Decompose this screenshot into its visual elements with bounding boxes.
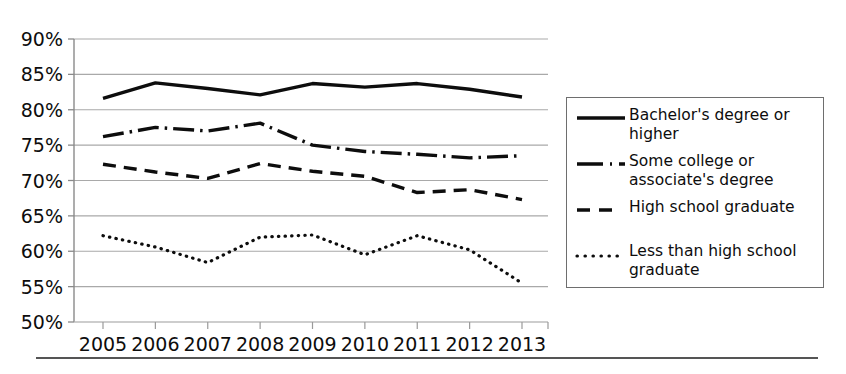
legend-item-bachelors: Bachelor's degree or higher <box>567 106 825 144</box>
legend-label-less-than-high-school: Less than high school graduate <box>627 242 797 280</box>
data-series-group <box>103 83 522 283</box>
series-line-1 <box>103 123 522 158</box>
x-tick-label: 2012 <box>445 333 493 355</box>
x-tick-label: 2005 <box>79 333 127 355</box>
legend-label-bachelors-line2: higher <box>629 125 790 144</box>
x-tick-label: 2010 <box>341 333 389 355</box>
legend-swatch-dashed-icon <box>575 200 627 220</box>
x-tick-label: 2009 <box>288 333 336 355</box>
y-tick-label: 70% <box>21 170 63 192</box>
legend-label-some-college: Some college or associate's degree <box>627 152 774 190</box>
legend-label-bachelors-line1: Bachelor's degree or <box>629 106 790 125</box>
legend-label-some-college-line1: Some college or <box>629 152 774 171</box>
y-tick-label: 65% <box>21 205 63 227</box>
legend-label-some-college-line2: associate's degree <box>629 171 774 190</box>
x-tick-label: 2006 <box>131 333 179 355</box>
x-tick-label: 2007 <box>184 333 232 355</box>
legend-label-high-school-line1: High school graduate <box>629 198 795 217</box>
legend-swatch-solid-icon <box>575 108 627 128</box>
x-tick-marks <box>103 322 548 329</box>
legend-item-high-school: High school graduate <box>567 198 825 220</box>
gridlines <box>74 39 548 322</box>
bottom-divider-rule <box>36 357 818 359</box>
y-tick-label: 80% <box>21 99 63 121</box>
y-tick-label: 60% <box>21 240 63 262</box>
chart-legend: Bachelor's degree or higher Some college… <box>566 97 824 288</box>
series-line-3 <box>103 235 522 283</box>
legend-item-less-than-high-school: Less than high school graduate <box>567 242 825 280</box>
x-axis-tick-labels: 200520062007200820092010201120122013 <box>79 333 546 355</box>
y-tick-label: 50% <box>21 311 63 333</box>
y-tick-label: 90% <box>21 28 63 50</box>
series-line-0 <box>103 83 522 99</box>
y-axis-tick-labels: 90%85%80%75%70%65%60%55%50% <box>21 28 63 333</box>
x-tick-label: 2013 <box>498 333 546 355</box>
legend-item-some-college: Some college or associate's degree <box>567 152 825 190</box>
legend-label-high-school: High school graduate <box>627 198 795 217</box>
x-tick-label: 2008 <box>236 333 284 355</box>
y-tick-marks <box>68 39 74 322</box>
legend-swatch-dash-dot-icon <box>575 154 627 174</box>
y-tick-label: 85% <box>21 63 63 85</box>
x-tick-label: 2011 <box>393 333 441 355</box>
chart-figure: 90%85%80%75%70%65%60%55%50% 200520062007… <box>0 0 846 374</box>
legend-label-lths-line2: graduate <box>629 261 797 280</box>
series-line-2 <box>103 164 522 200</box>
legend-swatch-dotted-icon <box>575 244 627 264</box>
y-tick-label: 55% <box>21 276 63 298</box>
legend-label-lths-line1: Less than high school <box>629 242 797 261</box>
legend-label-bachelors: Bachelor's degree or higher <box>627 106 790 144</box>
y-tick-label: 75% <box>21 134 63 156</box>
